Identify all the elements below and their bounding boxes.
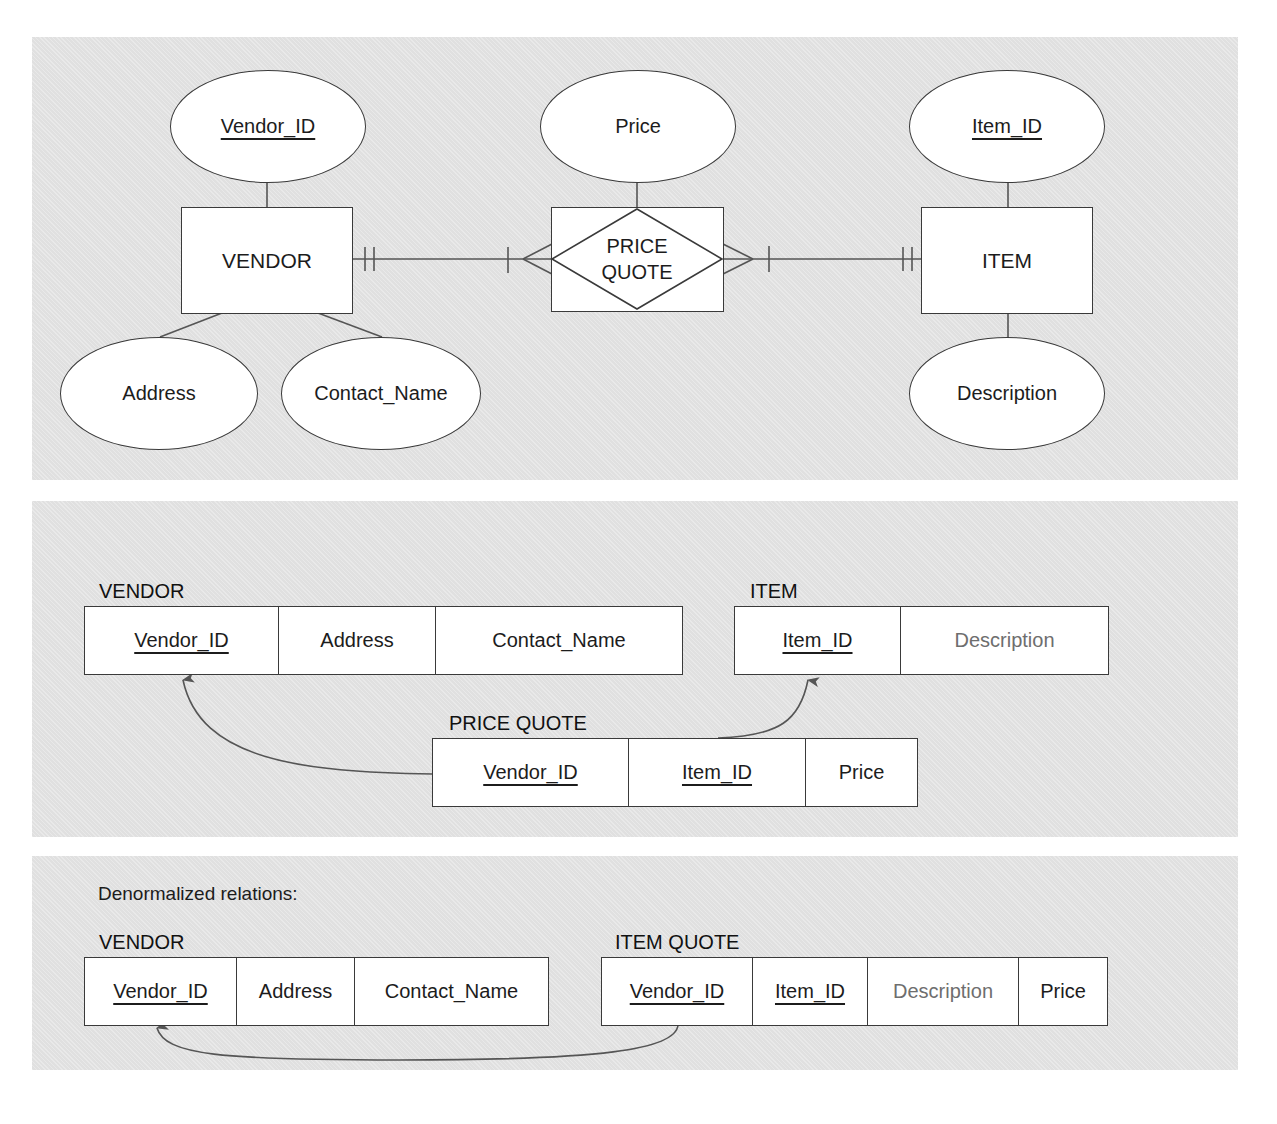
column-contact-name: Contact_Name: [436, 607, 682, 674]
column-price: Price: [1019, 958, 1107, 1025]
normalized-vendor-title: VENDOR: [99, 580, 185, 603]
column-description: Description: [868, 958, 1019, 1025]
denormalized-item-quote-relation: Vendor_ID Item_ID Description Price: [601, 957, 1108, 1026]
column-price: Price: [806, 739, 917, 806]
denormalized-heading: Denormalized relations:: [98, 883, 298, 905]
attribute-description: Description: [909, 337, 1105, 450]
column-item-id: Item_ID: [753, 958, 868, 1025]
price-quote-label-line1: PRICE: [587, 233, 687, 259]
column-contact-name: Contact_Name: [355, 958, 548, 1025]
entity-vendor-label: VENDOR: [222, 249, 312, 273]
item-id-label: Item_ID: [972, 115, 1042, 138]
column-vendor-id: Vendor_ID: [433, 739, 629, 806]
normalized-price-quote-title: PRICE QUOTE: [449, 712, 587, 735]
column-address: Address: [237, 958, 355, 1025]
entity-item-label: ITEM: [982, 249, 1032, 273]
normalized-price-quote-relation: Vendor_ID Item_ID Price: [432, 738, 918, 807]
contact-name-label: Contact_Name: [314, 382, 447, 405]
column-vendor-id: Vendor_ID: [85, 958, 237, 1025]
description-label: Description: [957, 382, 1057, 405]
vendor-id-label: Vendor_ID: [221, 115, 316, 138]
attribute-vendor-id: Vendor_ID: [170, 70, 366, 183]
normalized-item-relation: Item_ID Description: [734, 606, 1109, 675]
normalized-vendor-relation: Vendor_ID Address Contact_Name: [84, 606, 683, 675]
column-vendor-id: Vendor_ID: [85, 607, 279, 674]
price-label: Price: [615, 115, 661, 138]
entity-vendor: VENDOR: [181, 207, 353, 314]
column-description: Description: [901, 607, 1108, 674]
column-item-id: Item_ID: [629, 739, 806, 806]
column-address: Address: [279, 607, 436, 674]
address-label: Address: [122, 382, 195, 405]
denormalized-vendor-title: VENDOR: [99, 931, 185, 954]
column-vendor-id: Vendor_ID: [602, 958, 753, 1025]
normalized-item-title: ITEM: [750, 580, 798, 603]
attribute-address: Address: [60, 337, 258, 450]
attribute-contact-name: Contact_Name: [281, 337, 481, 450]
column-item-id: Item_ID: [735, 607, 901, 674]
attribute-price: Price: [540, 70, 736, 183]
price-quote-label-line2: QUOTE: [587, 259, 687, 285]
denormalized-item-quote-title: ITEM QUOTE: [615, 931, 739, 954]
price-quote-label: PRICE QUOTE: [587, 233, 687, 285]
denormalized-vendor-relation: Vendor_ID Address Contact_Name: [84, 957, 549, 1026]
attribute-item-id: Item_ID: [909, 70, 1105, 183]
entity-item: ITEM: [921, 207, 1093, 314]
